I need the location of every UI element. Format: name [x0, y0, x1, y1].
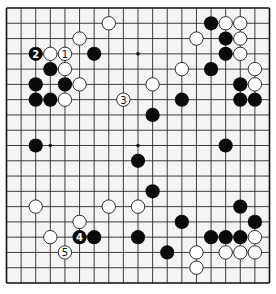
black-stone-icon: [146, 184, 160, 198]
white-stone-move-1: 1: [58, 47, 71, 60]
black-stone-icon: [160, 245, 174, 259]
white-stone-icon: [190, 261, 203, 274]
black-stone-icon: [175, 215, 189, 229]
black-stone-icon: [233, 230, 247, 244]
black-stone: [204, 16, 218, 30]
black-stone: [233, 200, 247, 214]
white-stone: [58, 62, 71, 75]
white-stone-icon: [131, 200, 144, 213]
white-stone: [44, 47, 57, 60]
white-stone-icon: [73, 215, 86, 228]
go-board: 21345: [0, 0, 276, 294]
white-stone: [102, 200, 115, 213]
white-stone-icon: [190, 246, 203, 259]
white-stone-icon: [234, 17, 247, 30]
white-stone-icon: [234, 246, 247, 259]
white-stone: [219, 246, 232, 259]
white-stone: [190, 261, 203, 274]
black-stone: [219, 230, 233, 244]
black-stone-icon: [43, 93, 57, 107]
move-number-label: 1: [62, 49, 68, 60]
white-stone: [234, 47, 247, 60]
black-stone: [43, 62, 57, 76]
black-stone-icon: [29, 93, 43, 107]
black-stone-icon: [204, 230, 218, 244]
black-stone-icon: [233, 200, 247, 214]
white-stone-icon: [190, 32, 203, 45]
white-stone: [248, 230, 261, 243]
black-stone-icon: [87, 47, 101, 61]
star-point: [49, 144, 53, 148]
white-stone-icon: [219, 17, 232, 30]
white-stone: [29, 200, 42, 213]
black-stone: [29, 138, 43, 152]
black-stone: [204, 230, 218, 244]
move-number-label: 4: [76, 232, 83, 243]
white-stone: [131, 200, 144, 213]
black-stone: [233, 77, 247, 91]
white-stone: [73, 78, 86, 91]
white-stone-icon: [219, 246, 232, 259]
black-stone-icon: [29, 77, 43, 91]
white-stone-icon: [102, 200, 115, 213]
white-stone: [102, 17, 115, 30]
white-stone-icon: [234, 32, 247, 45]
white-stone-move-3: 3: [117, 93, 130, 106]
white-stone: [58, 93, 71, 106]
white-stone-icon: [58, 93, 71, 106]
white-stone: [73, 32, 86, 45]
white-stone: [248, 78, 261, 91]
move-number-label: 2: [32, 49, 39, 60]
black-stone-icon: [248, 93, 262, 107]
black-stone: [87, 47, 101, 61]
white-stone: [248, 62, 261, 75]
black-stone-icon: [146, 108, 160, 122]
white-stone: [234, 246, 247, 259]
white-stone: [248, 246, 261, 259]
black-stone: [146, 184, 160, 198]
black-stone: [131, 230, 145, 244]
move-number-label: 3: [120, 95, 126, 106]
white-stone-move-5: 5: [58, 246, 71, 259]
black-stone: [131, 154, 145, 168]
black-stone: [248, 215, 262, 229]
black-stone-icon: [175, 93, 189, 107]
black-stone-icon: [219, 47, 233, 61]
black-stone: [219, 31, 233, 45]
black-stone: [233, 93, 247, 107]
black-stone: [233, 230, 247, 244]
black-stone-move-2: 2: [29, 47, 43, 61]
white-stone-icon: [146, 78, 159, 91]
black-stone-icon: [58, 77, 72, 91]
white-stone-icon: [175, 62, 188, 75]
white-stone-icon: [73, 32, 86, 45]
black-stone: [160, 245, 174, 259]
black-stone-icon: [29, 138, 43, 152]
black-stone-icon: [219, 31, 233, 45]
white-stone-icon: [44, 230, 57, 243]
white-stone-icon: [102, 17, 115, 30]
white-stone: [219, 17, 232, 30]
black-stone-icon: [219, 138, 233, 152]
black-stone-icon: [43, 62, 57, 76]
black-stone-icon: [233, 93, 247, 107]
black-stone-icon: [204, 16, 218, 30]
black-stone: [204, 62, 218, 76]
black-stone-icon: [131, 154, 145, 168]
black-stone: [219, 47, 233, 61]
white-stone-icon: [248, 246, 261, 259]
white-stone-icon: [73, 78, 86, 91]
black-stone: [29, 93, 43, 107]
black-stone: [146, 108, 160, 122]
black-stone: [43, 93, 57, 107]
white-stone: [146, 78, 159, 91]
black-stone: [175, 215, 189, 229]
black-stone: [175, 93, 189, 107]
star-point: [136, 52, 140, 56]
black-stone-icon: [204, 62, 218, 76]
white-stone-icon: [248, 62, 261, 75]
move-number-label: 5: [62, 247, 68, 258]
white-stone-icon: [44, 47, 57, 60]
black-stone-icon: [131, 230, 145, 244]
black-stone: [87, 230, 101, 244]
